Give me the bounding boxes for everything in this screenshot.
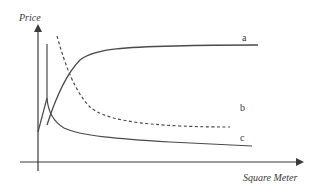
curve-b [57,36,230,127]
curve-b-label: b [240,103,245,113]
curve-c [38,98,47,132]
curve-a [47,45,258,125]
y-axis-label: Price [19,13,41,23]
curve-c-label: c [240,133,244,143]
curve-c-spike [47,44,252,146]
curve-a-label: a [242,33,246,43]
price-vs-area-chart: Price Square Meter a b c [0,0,319,192]
chart-plot-area [0,0,319,192]
x-axis-label: Square Meter [243,173,297,183]
